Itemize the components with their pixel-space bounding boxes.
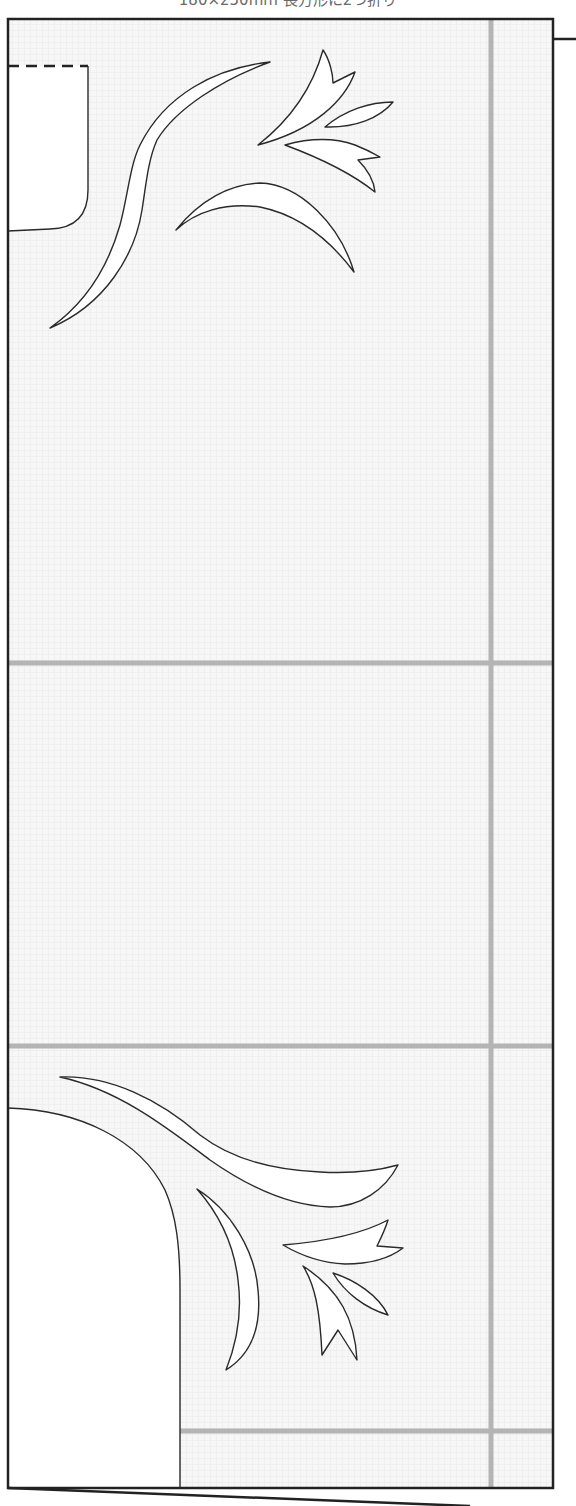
- papercut-pattern-diagram: [0, 0, 576, 1506]
- top-pocket-shape: [8, 66, 88, 231]
- fold-edge-line: [8, 1488, 470, 1506]
